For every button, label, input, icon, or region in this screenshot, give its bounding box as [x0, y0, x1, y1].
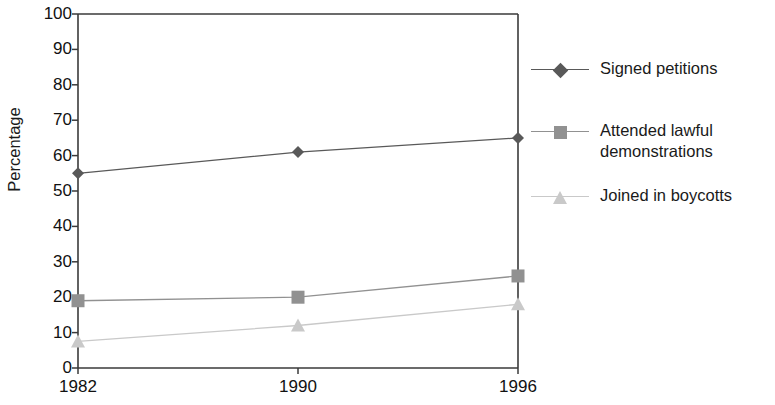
- legend-marker-triangle-icon: [528, 186, 592, 208]
- data-point-marker: [511, 297, 525, 310]
- series-group: [71, 297, 525, 347]
- legend-marker-square-icon: [528, 121, 592, 143]
- legend-marker-diamond-icon: [528, 59, 592, 81]
- legend-swatch: [553, 191, 567, 204]
- legend-swatch: [552, 62, 568, 78]
- legend-item[interactable]: Joined in boycotts: [528, 185, 775, 208]
- data-point-marker: [292, 291, 305, 304]
- legend-item[interactable]: Attended lawful demonstrations: [528, 120, 775, 162]
- legend-item[interactable]: Signed petitions: [528, 58, 775, 81]
- legend-swatch: [554, 126, 567, 139]
- data-point-marker: [512, 132, 524, 144]
- legend-label: Signed petitions: [592, 58, 717, 79]
- data-point-marker: [72, 167, 84, 179]
- legend-label: Joined in boycotts: [592, 185, 732, 206]
- line-chart: Percentage 1009080706050403020100 198219…: [0, 0, 775, 405]
- series-group: [72, 132, 524, 179]
- legend-label: Attended lawful demonstrations: [592, 120, 713, 162]
- series-group: [72, 269, 525, 307]
- data-point-marker: [72, 294, 85, 307]
- data-point-marker: [512, 269, 525, 282]
- data-point-marker: [292, 146, 304, 158]
